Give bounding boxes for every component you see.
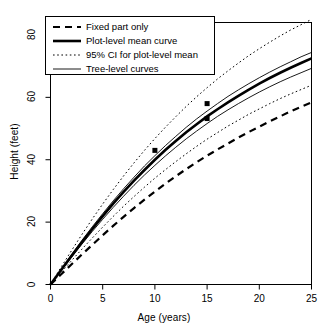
legend-label: Tree-level curves: [86, 63, 159, 75]
series-line: [51, 102, 312, 284]
legend-key-dotted-icon: [52, 48, 82, 62]
legend-item-95-ci: 95% CI for plot-level mean: [46, 48, 214, 62]
y-axis-title: Height (feet): [9, 102, 20, 202]
legend-label: 95% CI for plot-level mean: [86, 49, 198, 61]
x-axis-title: Age (years): [0, 312, 328, 323]
data-point-markers: [152, 101, 209, 153]
chart-figure: 0510152025020406080 Age (years) Height (…: [0, 0, 328, 334]
series-line: [51, 85, 312, 284]
legend-key-dashed-icon: [52, 20, 82, 34]
legend-item-tree-level-curves: Tree-level curves: [46, 62, 214, 76]
y-tick-label: 0: [25, 274, 36, 294]
data-point-marker: [205, 101, 210, 106]
y-tick-label: 80: [25, 24, 36, 44]
x-tick-label: 15: [195, 293, 219, 304]
x-tick-label: 5: [91, 293, 115, 304]
x-tick-label: 20: [247, 293, 271, 304]
y-tick-label: 60: [25, 87, 36, 107]
legend-key-solid-thick-icon: [52, 34, 82, 48]
legend-item-fixed-part-only: Fixed part only: [46, 20, 214, 34]
x-tick-label: 10: [143, 293, 167, 304]
y-tick-label: 40: [25, 149, 36, 169]
data-point-marker: [152, 148, 157, 153]
data-point-marker: [205, 116, 210, 121]
legend-key-solid-thin-icon: [52, 62, 82, 76]
series-line: [51, 52, 312, 284]
legend-label: Fixed part only: [86, 21, 148, 33]
series-line: [51, 68, 312, 284]
y-tick-label: 20: [25, 212, 36, 232]
legend-label: Plot-level mean curve: [86, 35, 177, 47]
legend-item-plot-level-mean-curve: Plot-level mean curve: [46, 34, 214, 48]
x-tick-label: 0: [39, 293, 63, 304]
x-tick-label: 25: [300, 293, 324, 304]
legend: Fixed part only Plot-level mean curve 95…: [45, 16, 215, 75]
